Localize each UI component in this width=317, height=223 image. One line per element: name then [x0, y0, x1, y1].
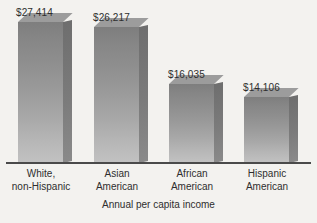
bar-front-face [18, 22, 63, 163]
x-axis-tick-label-line1: Asian [104, 168, 129, 179]
bar-value-label: $26,217 [93, 12, 130, 23]
bar-front-face [244, 97, 289, 163]
x-axis-tick-label-line2: non-Hispanic [8, 181, 74, 194]
x-axis-tick-label-line1: White, [27, 168, 55, 179]
x-axis-tick-label: Asian American [84, 168, 150, 193]
bar-group[interactable] [244, 97, 289, 163]
x-axis-tick-label-line1: Hispanic [248, 168, 286, 179]
plot-area: $27,414 $26,217 $16,035 $14,106 [0, 0, 317, 163]
bar-group[interactable] [18, 22, 63, 163]
x-axis-tick-label: White, non-Hispanic [8, 168, 74, 193]
bar-group[interactable] [169, 84, 214, 163]
bar-front-face [94, 27, 139, 163]
x-axis-tick-label-line2: American [84, 181, 150, 194]
bar-side-face [63, 20, 72, 163]
x-axis-tick-label: African American [159, 168, 225, 193]
x-axis-tick-label-line2: American [159, 181, 225, 194]
bar-chart: $27,414 $26,217 $16,035 $14,106 White, n… [0, 0, 317, 223]
bar-side-face [214, 82, 223, 163]
x-axis-tick-label-line2: American [234, 181, 300, 194]
bar-value-label: $27,414 [16, 7, 53, 18]
x-axis-title: Annual per capita income [0, 199, 317, 210]
bar-side-face [289, 95, 298, 163]
bar-value-label: $14,106 [243, 82, 280, 93]
x-axis-tick-label: Hispanic American [234, 168, 300, 193]
bar-group[interactable] [94, 27, 139, 163]
x-axis-line [6, 162, 311, 164]
bar-front-face [169, 84, 214, 163]
bar-value-label: $16,035 [168, 69, 205, 80]
x-axis-tick-label-line1: African [176, 168, 207, 179]
bar-side-face [139, 25, 148, 163]
